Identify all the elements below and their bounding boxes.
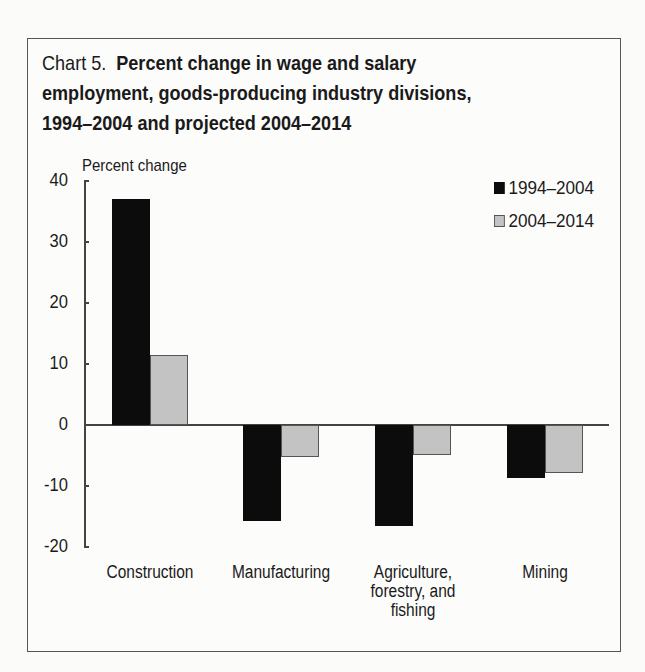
y-tick	[84, 241, 89, 243]
chart-title: Chart 5. Percent change in wage and sala…	[42, 48, 489, 138]
y-tick-label: 40	[31, 170, 68, 191]
y-tick-label: -10	[31, 475, 68, 496]
bar-manufacturing-1994–2004	[243, 425, 281, 521]
y-tick	[84, 180, 89, 182]
y-tick-label: -20	[31, 536, 68, 557]
y-tick	[84, 302, 89, 304]
title-line-1: Percent change in wage and salary	[116, 51, 416, 74]
y-tick-label: 20	[31, 292, 68, 313]
chart-number: Chart 5.	[42, 51, 106, 74]
legend-item-1994-2004: 1994–2004	[494, 177, 594, 199]
legend-swatch-black-icon	[494, 182, 505, 194]
bar-agriculture-2004–2014	[413, 425, 451, 455]
y-tick-label: 10	[31, 353, 68, 374]
legend-item-2004-2014: 2004–2014	[494, 210, 594, 232]
legend-label: 1994–2004	[508, 177, 594, 199]
legend-swatch-gray-icon	[494, 215, 505, 227]
bar-agriculture-1994–2004	[375, 425, 413, 526]
bar-construction-1994–2004	[112, 199, 150, 425]
bar-mining-1994–2004	[507, 425, 545, 478]
title-line-3: 1994–2004 and projected 2004–2014	[42, 108, 489, 138]
category-label: Mining	[485, 563, 605, 582]
y-tick	[84, 363, 89, 365]
y-tick	[84, 546, 89, 548]
bar-construction-2004–2014	[150, 355, 188, 425]
bar-mining-2004–2014	[545, 425, 583, 473]
y-tick-label: 30	[31, 231, 68, 252]
y-tick	[84, 424, 89, 426]
title-line-2: employment, goods-producing industry div…	[42, 78, 489, 108]
y-axis-label: Percent change	[82, 156, 187, 176]
y-tick	[84, 485, 89, 487]
y-tick-label: 0	[31, 414, 68, 435]
category-label: Construction	[90, 563, 210, 582]
legend-label: 2004–2014	[508, 210, 594, 232]
bar-manufacturing-2004–2014	[281, 425, 319, 457]
category-label: Agriculture,forestry, andfishing	[353, 563, 473, 620]
category-label: Manufacturing	[221, 563, 341, 582]
